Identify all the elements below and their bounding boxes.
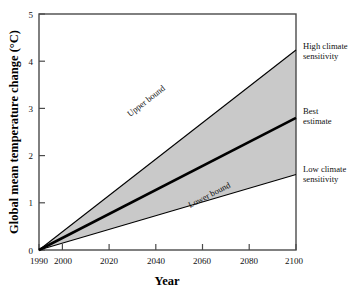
y-tick-label-5: 5	[29, 10, 34, 20]
x-tick-label-1990: 1990	[30, 256, 49, 266]
callout-high-climate-sensitivity-line2: sensitivity	[303, 51, 339, 61]
x-tick-label-2080: 2080	[240, 256, 259, 266]
climate-projection-figure: 5 4 3 2 1 0 1990 2000 2020 2040 2060 208…	[0, 0, 359, 294]
x-tick-label-2100: 2100	[285, 256, 304, 266]
y-tick-label-3: 3	[29, 104, 34, 114]
x-tick-label-2040: 2040	[147, 256, 166, 266]
y-tick-label-1: 1	[29, 198, 34, 208]
callout-best-estimate-line1: Best	[303, 106, 319, 116]
y-tick-label-4: 4	[29, 57, 34, 67]
x-tick-label-2060: 2060	[193, 256, 212, 266]
x-tick-label-2020: 2020	[100, 256, 119, 266]
callout-high-climate-sensitivity-line1: High climate	[303, 41, 348, 51]
callout-low-climate-sensitivity-line1: Low climate	[303, 164, 346, 174]
x-axis-title: Year	[155, 274, 180, 288]
chart-canvas: 5 4 3 2 1 0 1990 2000 2020 2040 2060 208…	[0, 0, 359, 294]
x-tick-label-2000: 2000	[54, 256, 73, 266]
callout-best-estimate-line2: estimate	[303, 116, 332, 126]
y-tick-label-0: 0	[29, 246, 34, 256]
y-axis-title: Global mean temperature change (°C)	[7, 30, 21, 234]
callout-low-climate-sensitivity-line2: sensitivity	[303, 174, 339, 184]
y-tick-label-2: 2	[29, 151, 34, 161]
